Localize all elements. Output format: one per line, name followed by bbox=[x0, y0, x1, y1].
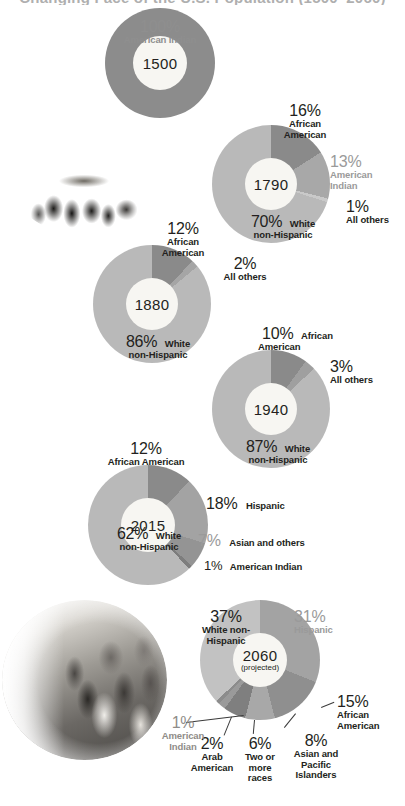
leader-line-2060-two-or-more bbox=[253, 720, 255, 734]
label-2060-african-american-name2: American bbox=[337, 721, 403, 731]
label-1500-american-indian-name: American Indian bbox=[110, 35, 210, 45]
label-2060-african-american: 15% African American bbox=[337, 693, 403, 731]
label-1500-american-indian-pct: 100% bbox=[110, 18, 210, 35]
label-1790-african-american: 16% African American bbox=[270, 102, 340, 140]
label-2060-american-indian-name1: American bbox=[150, 731, 216, 741]
leader-line-2060-african-american bbox=[321, 702, 334, 708]
label-1790-american-indian: 13% American Indian bbox=[330, 153, 402, 191]
historic-image-vignette bbox=[8, 115, 160, 235]
label-2060-asian-pacific: 8% Asian and Pacific Islanders bbox=[283, 732, 349, 780]
label-1790-american-indian-name2: Indian bbox=[330, 181, 402, 191]
infographic-root: Changing Face of the U.S. Population (15… bbox=[0, 0, 405, 806]
historic-encampment-image bbox=[8, 115, 160, 235]
label-1880-african-american: 12% African American bbox=[148, 220, 218, 258]
label-1880-white-name1: White bbox=[165, 338, 190, 349]
label-2060-hispanic: 31% Hispanic bbox=[294, 608, 364, 636]
label-1880-white-name2: non-Hispanic bbox=[102, 350, 214, 360]
label-1790-american-indian-pct: 13% bbox=[330, 153, 402, 170]
label-2060-asian-pacific-name3: Islanders bbox=[283, 770, 349, 780]
label-2060-hispanic-name: Hispanic bbox=[294, 625, 364, 635]
label-2060-white-name2: Hispanic bbox=[186, 636, 266, 646]
label-1790-white-name2: non-Hispanic bbox=[228, 230, 338, 240]
label-1940-all-others: 3% All others bbox=[330, 358, 396, 386]
label-1940-african-american: 10% African American bbox=[262, 325, 372, 353]
label-2015-hispanic-name: Hispanic bbox=[246, 500, 285, 511]
pie-1500-year: 1500 bbox=[143, 56, 178, 71]
label-1790-all-others-name: All others bbox=[346, 215, 405, 225]
pie-2060-year: 2060 bbox=[243, 648, 278, 663]
label-2015-american-indian: 1% American Indian bbox=[204, 556, 302, 573]
label-2015-hispanic-pct: 18% bbox=[206, 495, 237, 512]
label-2060-american-indian: 1% American Indian bbox=[150, 714, 216, 752]
label-2060-african-american-name1: African bbox=[337, 710, 403, 720]
label-1940-all-others-name: All others bbox=[330, 375, 396, 385]
label-2015-white: 62% White non-Hispanic bbox=[92, 525, 206, 553]
label-1790-african-american-name2: American bbox=[270, 130, 340, 140]
label-2015-hispanic: 18% Hispanic bbox=[206, 495, 285, 512]
label-1880-all-others-pct: 2% bbox=[212, 255, 278, 272]
label-1880-all-others: 2% All others bbox=[212, 255, 278, 283]
label-1880-white-pct: 86% bbox=[126, 333, 157, 350]
label-2060-white: 37% White non- Hispanic bbox=[186, 608, 266, 646]
label-1880-african-american-name2: American bbox=[148, 248, 218, 258]
label-1880-all-others-name: All others bbox=[212, 272, 278, 282]
pie-1940-year: 1940 bbox=[254, 402, 289, 417]
pie-1880-year: 1880 bbox=[135, 297, 170, 312]
pie-1940-center: 1940 bbox=[245, 383, 297, 435]
label-2060-two-or-more-pct: 6% bbox=[234, 735, 286, 752]
label-1790-american-indian-name1: American bbox=[330, 170, 402, 180]
label-1940-african-american-pct: 10% bbox=[262, 325, 293, 342]
label-2060-two-or-more-name3: races bbox=[234, 773, 286, 783]
label-1940-white-pct: 87% bbox=[246, 438, 277, 455]
label-2060-two-or-more-name1: Two or bbox=[234, 752, 286, 762]
label-2060-african-american-pct: 15% bbox=[337, 693, 403, 710]
label-2015-african-american-name: African American bbox=[86, 457, 206, 467]
label-2015-white-name1: White bbox=[156, 530, 181, 541]
label-2060-american-indian-name2: Indian bbox=[150, 742, 216, 752]
label-1790-white: 70% White non-Hispanic bbox=[228, 213, 338, 241]
label-1880-white: 86% White non-Hispanic bbox=[102, 333, 214, 361]
pie-2060-sublabel: (projected) bbox=[241, 664, 279, 672]
label-2060-american-indian-pct: 1% bbox=[150, 714, 216, 731]
label-2060-asian-pacific-pct: 8% bbox=[283, 732, 349, 749]
label-1940-african-american-name1: African bbox=[301, 330, 333, 341]
label-1940-african-american-name2: American bbox=[258, 342, 372, 352]
label-1940-white-name1: White bbox=[285, 443, 310, 454]
label-2060-hispanic-pct: 31% bbox=[294, 608, 364, 625]
leader-line-2060-arab-american bbox=[224, 717, 232, 736]
label-2015-american-indian-pct: 1% bbox=[204, 558, 222, 573]
modern-crowd-image bbox=[2, 600, 167, 760]
label-1880-african-american-pct: 12% bbox=[148, 220, 218, 237]
label-1790-african-american-name1: African bbox=[270, 119, 340, 129]
label-1790-white-name1: White bbox=[290, 218, 315, 229]
label-1500-american-indian: 100% American Indian bbox=[110, 18, 210, 46]
pie-1880-center: 1880 bbox=[126, 278, 178, 330]
modern-image-vignette bbox=[2, 600, 167, 760]
label-1790-white-pct: 70% bbox=[251, 213, 282, 230]
label-2060-asian-pacific-name1: Asian and bbox=[283, 749, 349, 759]
label-2060-white-pct: 37% bbox=[186, 608, 266, 625]
label-2015-african-american: 12% African American bbox=[86, 440, 206, 468]
label-2015-white-name2: non-Hispanic bbox=[92, 542, 206, 552]
label-2015-asian-others-name: Asian and others bbox=[229, 537, 304, 548]
label-2060-arab-american-name1: Arab bbox=[183, 752, 241, 762]
page-title: Changing Face of the U.S. Population (15… bbox=[0, 0, 405, 5]
pie-1790-center: 1790 bbox=[245, 158, 297, 210]
label-1790-all-others: 1% All others bbox=[346, 198, 405, 226]
leader-line-2060-asian-pacific bbox=[284, 713, 296, 728]
pie-1790-year: 1790 bbox=[254, 177, 289, 192]
label-2015-white-pct: 62% bbox=[117, 525, 148, 542]
label-1880-african-american-name1: African bbox=[148, 237, 218, 247]
label-2060-two-or-more: 6% Two or more races bbox=[234, 735, 286, 783]
label-1790-african-american-pct: 16% bbox=[270, 102, 340, 119]
label-2060-arab-american-name2: American bbox=[183, 763, 241, 773]
label-1940-white: 87% White non-Hispanic bbox=[222, 438, 334, 466]
label-2015-african-american-pct: 12% bbox=[86, 440, 206, 457]
label-1940-white-name2: non-Hispanic bbox=[222, 455, 334, 465]
label-2015-american-indian-name: American Indian bbox=[230, 561, 302, 572]
label-2015-asian-others: 7% Asian and others bbox=[198, 532, 305, 549]
label-1790-all-others-pct: 1% bbox=[346, 198, 405, 215]
label-2060-white-name1: White non- bbox=[186, 625, 266, 635]
label-1940-all-others-pct: 3% bbox=[330, 358, 396, 375]
